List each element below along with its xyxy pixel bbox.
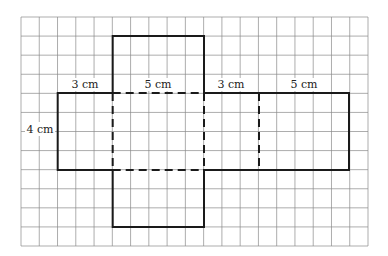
label-height: 4 cm bbox=[26, 123, 54, 136]
label-seg4: 5 cm bbox=[290, 78, 318, 91]
label-seg2: 5 cm bbox=[144, 78, 172, 91]
grid-lines bbox=[21, 17, 368, 246]
net-diagram: 4 cm 3 cm 5 cm 3 cm 5 cm bbox=[0, 0, 388, 256]
label-seg3: 3 cm bbox=[217, 78, 245, 91]
label-seg1: 3 cm bbox=[71, 78, 99, 91]
